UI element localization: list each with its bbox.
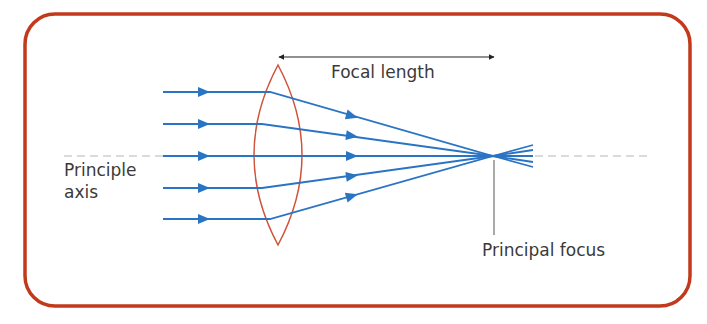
principle-axis-label-line1: Principle	[64, 160, 136, 180]
principle-axis-label-line2: axis	[64, 182, 98, 202]
principal-focus-label: Principal focus	[482, 240, 605, 260]
focal-length-label: Focal length	[331, 62, 435, 82]
ray-arrowheads-refracted	[345, 110, 359, 203]
ray-arrowheads-incoming	[198, 87, 210, 224]
